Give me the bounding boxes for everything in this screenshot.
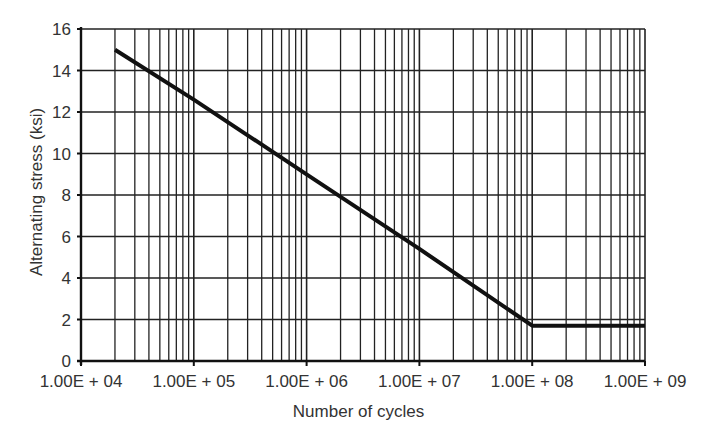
svg-text:1.00E + 05: 1.00E + 05 <box>152 372 235 391</box>
y-axis-label: Alternating stress (ksi) <box>27 97 47 287</box>
svg-text:4: 4 <box>62 269 71 288</box>
svg-text:12: 12 <box>52 103 71 122</box>
svg-text:14: 14 <box>52 62 71 81</box>
svg-text:1.00E + 04: 1.00E + 04 <box>40 372 123 391</box>
svg-text:2: 2 <box>62 311 71 330</box>
x-axis-label: Number of cycles <box>0 402 717 422</box>
svg-text:1.00E + 06: 1.00E + 06 <box>265 372 348 391</box>
svg-text:6: 6 <box>62 228 71 247</box>
svg-text:1.00E + 09: 1.00E + 09 <box>604 372 687 391</box>
tick-labels: 02468101214161.00E + 041.00E + 051.00E +… <box>40 20 687 391</box>
svg-text:8: 8 <box>62 186 71 205</box>
svg-text:16: 16 <box>52 20 71 39</box>
grid-lines <box>81 29 645 361</box>
sn-curve-chart: 02468101214161.00E + 041.00E + 051.00E +… <box>0 0 717 444</box>
svg-text:1.00E + 07: 1.00E + 07 <box>378 372 461 391</box>
svg-text:1.00E + 08: 1.00E + 08 <box>491 372 574 391</box>
svg-text:0: 0 <box>62 352 71 371</box>
svg-text:10: 10 <box>52 145 71 164</box>
